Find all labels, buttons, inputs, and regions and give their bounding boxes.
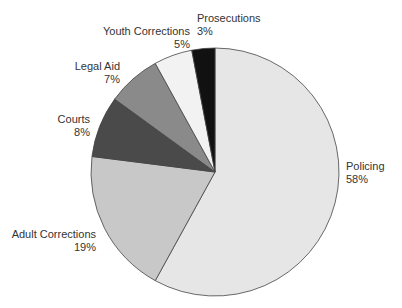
label-legal-aid: Legal Aid 7% [70, 60, 120, 86]
label-policing: Policing 58% [346, 160, 385, 186]
label-adult-corrections: Adult Corrections 19% [0, 228, 96, 254]
label-courts: Courts 8% [40, 113, 90, 139]
pie-chart [0, 0, 402, 308]
label-prosecutions: Prosecutions 3% [197, 12, 261, 38]
label-youth-corrections: Youth Corrections 5% [100, 25, 190, 51]
